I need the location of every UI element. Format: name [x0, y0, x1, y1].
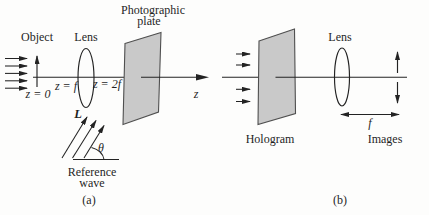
lens-symbol-label: L [73, 107, 82, 121]
z-axis-label: z [193, 87, 199, 101]
reference-label-line2: wave [79, 176, 104, 190]
photographic-plate [123, 33, 161, 125]
lens-label-b: Lens [328, 30, 352, 44]
textbook-figure-holography: Object Lens Photographic plate z = 0 z =… [0, 0, 429, 215]
z-axis-arrowhead [196, 74, 209, 81]
plane-wave-arrows-a [5, 59, 27, 89]
plate-label-line2: plate [137, 14, 160, 28]
caption-a: (a) [82, 193, 95, 207]
images-label: Images [368, 132, 403, 146]
caption-b: (b) [333, 193, 347, 207]
z-focal-label: z = f [54, 79, 79, 93]
reference-wave-arrow [62, 117, 87, 158]
hologram-label: Hologram [246, 132, 295, 146]
theta-label: θ [98, 141, 104, 155]
z-double-focal-label: z = 2f [92, 77, 123, 91]
object-label: Object [21, 30, 54, 44]
lens-a [78, 49, 94, 108]
figure-canvas: Object Lens Photographic plate z = 0 z =… [0, 0, 429, 215]
focal-length-label: f [368, 116, 373, 130]
panel-a: Object Lens Photographic plate z = 0 z =… [5, 3, 209, 207]
panel-b: Lens Hologram Images f (b) [222, 29, 407, 207]
reference-wave-arrow [73, 121, 97, 159]
lens-label-a: Lens [74, 30, 98, 44]
z-origin-label: z = 0 [25, 87, 51, 101]
